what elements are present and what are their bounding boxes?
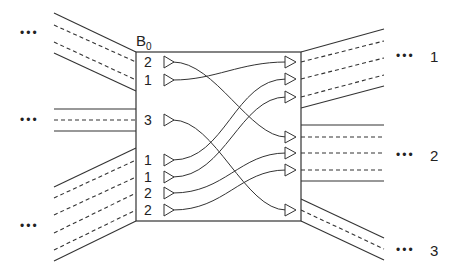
- ellipsis-icon: •••: [20, 113, 39, 127]
- block-label: B0: [136, 32, 152, 52]
- switch-diagram: B0 2 1 3 1 1 2 2 •••: [0, 0, 461, 276]
- right-bundle-group-2: [301, 125, 384, 181]
- input-label: 3: [144, 112, 152, 128]
- left-ellipses: ••• ••• •••: [20, 26, 39, 233]
- input-label: 1: [144, 169, 152, 185]
- switch-block-b0: [136, 52, 301, 221]
- group-label: 1: [430, 48, 438, 65]
- input-label: 1: [144, 152, 152, 168]
- ellipsis-icon: •••: [396, 148, 415, 162]
- left-bundle-middle: [54, 109, 136, 131]
- ellipsis-icon: •••: [20, 219, 39, 233]
- left-bundle-bottom: [54, 148, 136, 261]
- input-label: 2: [144, 202, 152, 218]
- right-group-labels: ••• 1 ••• 2 ••• 3: [396, 48, 438, 259]
- ellipsis-icon: •••: [20, 26, 39, 40]
- ellipsis-icon: •••: [396, 243, 415, 257]
- ellipsis-icon: •••: [396, 49, 415, 63]
- input-label: 2: [144, 185, 152, 201]
- input-label: 2: [144, 54, 152, 70]
- input-label: 1: [144, 72, 152, 88]
- group-label: 3: [430, 242, 438, 259]
- right-bundle-group-3: [301, 199, 384, 260]
- left-bundle-top: [54, 13, 136, 91]
- group-label: 2: [430, 147, 438, 164]
- right-bundle-group-1: [301, 29, 384, 108]
